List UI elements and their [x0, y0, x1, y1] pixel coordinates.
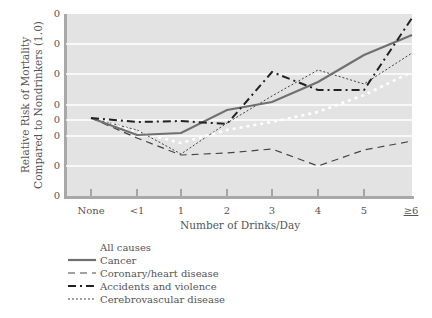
- legend-item-cerebrovascular: Cerebrovascular disease: [100, 293, 225, 306]
- y-axis-title-line2: Compared to Nondrinkers (1.0): [32, 21, 45, 189]
- x-tick-label: 3: [269, 205, 275, 216]
- x-axis: [64, 196, 414, 199]
- legend-swatches: [68, 247, 96, 299]
- y-tick-label: 0: [52, 99, 60, 110]
- y-tick-label: 0: [52, 68, 60, 79]
- y-tick-label: 0: [52, 190, 60, 201]
- y-tick-label: 0: [52, 114, 60, 125]
- x-tick-label: 1: [178, 205, 184, 216]
- legend-item-all-causes: All causes: [100, 241, 151, 254]
- x-tick-label: 5: [361, 205, 367, 216]
- legend-item-accidents: Accidents and violence: [100, 280, 217, 293]
- x-tick-label: ≥6: [404, 205, 419, 216]
- y-tick-label: 0: [52, 8, 60, 19]
- legend-item-cancer: Cancer: [100, 254, 136, 267]
- legend-label: Cerebrovascular disease: [100, 294, 225, 305]
- x-tick-label: 4: [315, 205, 321, 216]
- legend-label: All causes: [100, 242, 151, 253]
- legend-item-coronary: Coronary/heart disease: [100, 267, 219, 280]
- legend-label: Cancer: [100, 255, 136, 266]
- x-tick-label: None: [77, 205, 104, 216]
- legend-label: Accidents and violence: [100, 281, 217, 292]
- x-tick-label: <1: [130, 205, 145, 216]
- legend-label: Coronary/heart disease: [100, 268, 219, 279]
- x-axis-title: Number of Drinks/Day: [180, 219, 300, 231]
- y-tick-label: 0: [52, 160, 60, 171]
- y-axis-title-line1: Relative Risk of Mortality: [19, 21, 32, 189]
- y-tick-label: 0: [52, 130, 60, 141]
- y-axis: [64, 14, 67, 199]
- y-tick-label: 0: [52, 38, 60, 49]
- x-tick-label: 2: [224, 205, 230, 216]
